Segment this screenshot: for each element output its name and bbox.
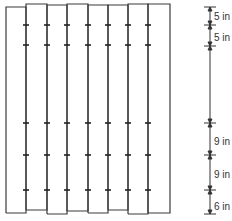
dimension-labels-group: 5 in5 in9 in9 in6 in xyxy=(214,11,230,212)
fence-board xyxy=(26,4,47,210)
dimension-label: 5 in xyxy=(214,32,230,43)
fence-board xyxy=(47,5,67,214)
fence-board xyxy=(88,5,108,213)
dimension-label: 9 in xyxy=(214,169,230,180)
arrow-up-icon xyxy=(208,155,212,159)
fence-board xyxy=(67,4,88,211)
nail-marks-group xyxy=(23,25,151,190)
fence-board xyxy=(128,4,148,214)
arrow-up-icon xyxy=(208,46,212,50)
arrow-down-icon xyxy=(208,210,212,214)
arrow-up-icon xyxy=(208,123,212,127)
dimension-label: 6 in xyxy=(214,201,230,212)
arrow-up-icon xyxy=(208,7,212,11)
fence-board xyxy=(108,5,128,210)
dimension-label: 9 in xyxy=(214,136,230,147)
arrow-up-icon xyxy=(208,25,212,29)
fence-board-diagram: 5 in5 in9 in9 in6 in xyxy=(0,0,232,221)
dimension-label: 5 in xyxy=(214,11,230,22)
boards-group xyxy=(6,4,170,214)
fence-board xyxy=(148,4,170,213)
arrow-up-icon xyxy=(208,190,212,194)
fence-board xyxy=(6,7,26,213)
